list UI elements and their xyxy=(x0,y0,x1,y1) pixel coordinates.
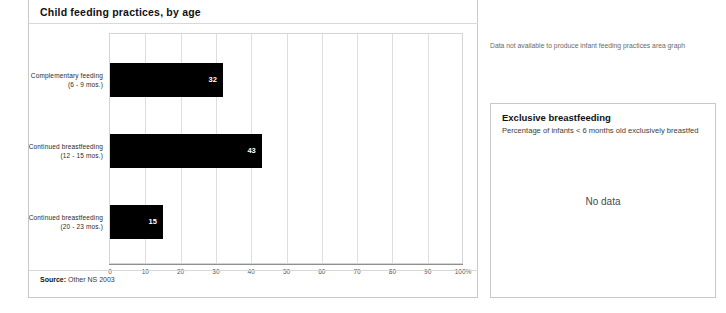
chart-category-label-2: Continued breastfeeding (20 - 23 mos.) xyxy=(0,213,103,231)
chart-gridline xyxy=(322,34,323,263)
chart-gridline xyxy=(428,34,429,263)
child-feeding-bar-chart: Complementary feeding (6 - 9 mos.) Conti… xyxy=(29,24,478,274)
exclusive-breastfeeding-no-data: No data xyxy=(491,196,715,207)
chart-gridline xyxy=(392,34,393,263)
chart-x-axis-line xyxy=(109,264,463,265)
source-divider xyxy=(29,270,478,271)
chart-bar-continued-breastfeeding-12-15: 43 xyxy=(110,134,262,168)
source-line: Source: Other NS 2003 xyxy=(40,276,115,283)
chart-bar-continued-breastfeeding-20-23: 15 xyxy=(110,205,163,239)
page-title: Child feeding practices, by age xyxy=(40,6,201,18)
chart-category-label-0: Complementary feeding (6 - 9 mos.) xyxy=(0,71,103,89)
chart-gridline xyxy=(287,34,288,263)
source-label: Source: xyxy=(40,276,66,283)
chart-gridline xyxy=(357,34,358,263)
child-feeding-practices-panel: Child feeding practices, by age Compleme… xyxy=(28,0,478,298)
chart-category-label-1: Continued breastfeeding (12 - 15 mos.) xyxy=(0,142,103,160)
chart-bar-value-0: 32 xyxy=(209,63,217,97)
no-area-graph-note: Data not available to produce infant fee… xyxy=(490,40,690,51)
chart-bar-value-1: 43 xyxy=(247,134,255,168)
chart-bar-complementary-feeding: 32 xyxy=(110,63,223,97)
source-value: Other NS 2003 xyxy=(68,276,115,283)
exclusive-breastfeeding-subtitle: Percentage of infants < 6 months old exc… xyxy=(502,126,702,137)
exclusive-breastfeeding-title: Exclusive breastfeeding xyxy=(502,112,611,123)
exclusive-breastfeeding-panel: Exclusive breastfeeding Percentage of in… xyxy=(490,103,716,298)
chart-bar-value-2: 15 xyxy=(149,205,157,239)
